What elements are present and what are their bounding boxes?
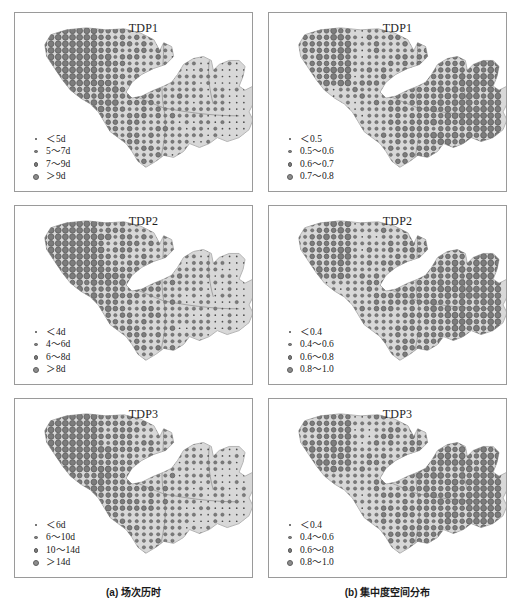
legend-item: 6～8d [29,351,70,364]
legend-item: 10～14d [29,544,80,557]
legend-label: ＜6d [43,519,66,532]
panel-title: TDP1 [15,21,252,36]
map-panel-b-tdp1: TDP1 ＜0.5 0.5～0.6 0.6～0.7 0.7～0.8 [268,12,507,192]
panel-title: TDP2 [269,214,506,229]
panel-title: TDP3 [15,407,252,422]
legend-dot-icon [29,150,43,153]
legend-a-tdp3: ＜6d 6～10d 10～14d ＞14d [29,519,80,569]
legend-label: ＜5d [43,133,66,146]
legend-item: ＜5d [29,133,70,146]
legend-label: ＜0.5 [297,133,322,146]
legend-item: 4～6d [29,338,70,351]
legend-dot-icon [29,355,43,360]
map-panel-a-tdp1: TDP1 ＜5d 5～7d 7～9d ＞9d [14,12,253,192]
legend-label: ＞8d [43,363,66,376]
legend-dot-icon [283,331,297,333]
legend-item: 7～9d [29,158,70,171]
panel-title: TDP2 [15,214,252,229]
figure-root: TDP1 ＜5d 5～7d 7～9d ＞9d TDP1 [0,0,520,607]
legend-dot-icon [283,548,297,553]
panel-title: TDP3 [269,407,506,422]
legend-label: 0.6～0.8 [297,544,334,557]
legend-label: 10～14d [43,544,80,557]
legend-label: 0.4～0.6 [297,531,334,544]
map-panel-b-tdp2: TDP2 ＜0.4 0.4～0.6 0.6～0.8 0.8～1.0 [268,205,507,385]
legend-label: 0.8～1.0 [297,363,334,376]
legend-label: 4～6d [43,338,70,351]
legend-label: ＜0.4 [297,326,322,339]
legend-label: 0.7～0.8 [297,170,334,183]
legend-dot-icon [29,367,43,373]
legend-dot-icon [29,548,43,553]
legend-item: ＞14d [29,556,80,569]
panel-title: TDP1 [269,21,506,36]
legend-dot-icon [29,343,43,346]
legend-item: ＜0.4 [283,326,334,339]
legend-dot-icon [29,162,43,167]
legend-item: 6～10d [29,531,80,544]
map-panel-a-tdp2: TDP2 ＜4d 4～6d 6～8d ＞8d [14,205,253,385]
legend-dot-icon [283,343,297,346]
legend-item: 5～7d [29,145,70,158]
legend-label: ＜0.4 [297,519,322,532]
legend-label: 0.8～1.0 [297,556,334,569]
legend-label: 6～10d [43,531,75,544]
legend-dot-icon [283,367,297,373]
legend-dot-icon [283,524,297,526]
legend-label: 0.4～0.6 [297,338,334,351]
legend-item: 0.6～0.7 [283,158,334,171]
legend-item: ＜0.5 [283,133,334,146]
legend-b-tdp1: ＜0.5 0.5～0.6 0.6～0.7 0.7～0.8 [283,133,334,183]
legend-item: ＜6d [29,519,80,532]
legend-item: 0.6～0.8 [283,351,334,364]
legend-item: 0.5～0.6 [283,145,334,158]
legend-label: 0.5～0.6 [297,145,334,158]
legend-b-tdp2: ＜0.4 0.4～0.6 0.6～0.8 0.8～1.0 [283,326,334,376]
legend-dot-icon [283,174,297,180]
legend-item: ＜4d [29,326,70,339]
legend-label: ＜4d [43,326,66,339]
legend-dot-icon [283,536,297,539]
legend-dot-icon [283,150,297,153]
legend-dot-icon [29,560,43,566]
legend-dot-icon [283,355,297,360]
legend-item: 0.8～1.0 [283,363,334,376]
legend-item: 0.4～0.6 [283,531,334,544]
legend-a-tdp1: ＜5d 5～7d 7～9d ＞9d [29,133,70,183]
legend-dot-icon [283,138,297,140]
legend-item: 0.4～0.6 [283,338,334,351]
legend-item: 0.6～0.8 [283,544,334,557]
legend-label: ＞9d [43,170,66,183]
legend-dot-icon [283,162,297,167]
legend-dot-icon [29,138,43,140]
map-panel-b-tdp3: TDP3 ＜0.4 0.4～0.6 0.6～0.8 0.8～1.0 [268,398,507,578]
legend-item: 0.8～1.0 [283,556,334,569]
legend-item: ＜0.4 [283,519,334,532]
map-panel-a-tdp3: TDP3 ＜6d 6～10d 10～14d ＞14d [14,398,253,578]
legend-label: ＞14d [43,556,70,569]
legend-label: 0.6～0.8 [297,351,334,364]
legend-a-tdp2: ＜4d 4～6d 6～8d ＞8d [29,326,70,376]
legend-dot-icon [29,536,43,539]
subfigure-caption-b: (b) 集中度空间分布 [268,584,507,599]
legend-label: 5～7d [43,145,70,158]
legend-label: 7～9d [43,158,70,171]
legend-dot-icon [29,174,43,180]
legend-item: ＞9d [29,170,70,183]
legend-item: 0.7～0.8 [283,170,334,183]
legend-b-tdp3: ＜0.4 0.4～0.6 0.6～0.8 0.8～1.0 [283,519,334,569]
legend-label: 6～8d [43,351,70,364]
legend-label: 0.6～0.7 [297,158,334,171]
legend-dot-icon [29,524,43,526]
subfigure-caption-a: (a) 场次历时 [14,584,253,599]
legend-item: ＞8d [29,363,70,376]
legend-dot-icon [29,331,43,333]
legend-dot-icon [283,560,297,566]
